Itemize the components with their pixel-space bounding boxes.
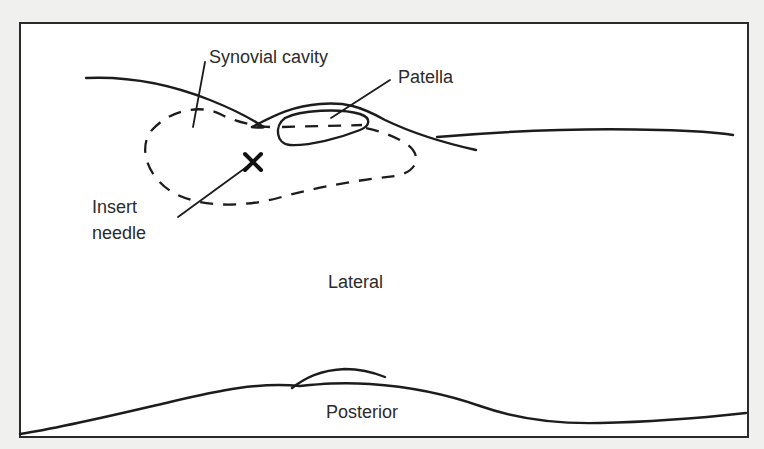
insert-needle-label-line2: needle [92, 222, 146, 244]
patella-label: Patella [398, 66, 453, 88]
needle-site-x-icon [245, 154, 261, 170]
synovial-cavity-label: Synovial cavity [209, 46, 328, 68]
lateral-label: Lateral [328, 271, 383, 293]
anterior-skin-contour-right [437, 129, 733, 137]
posterior-label: Posterior [326, 401, 398, 423]
suprapatellar-dashed-line [282, 125, 362, 127]
diagram-page: Synovial cavity Patella Insert needle La… [0, 0, 764, 449]
insert-needle-label-line1: Insert [92, 196, 137, 218]
insert-needle-leader [178, 166, 248, 217]
patella-leader [331, 80, 390, 118]
